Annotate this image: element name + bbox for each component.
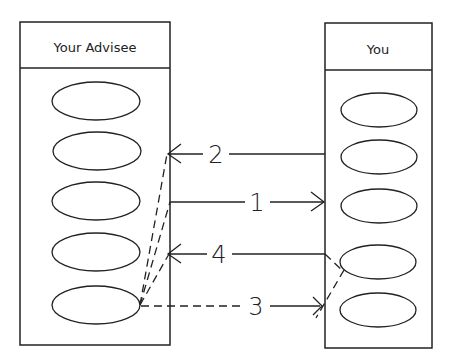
arrow-3: 3 xyxy=(141,293,322,321)
arrow-4-label: 4 xyxy=(211,241,226,269)
arrow-1-label: 1 xyxy=(249,189,264,217)
right-ellipse-2 xyxy=(341,140,417,174)
arrow-2-label: 2 xyxy=(208,141,223,169)
right-ellipse-4 xyxy=(340,245,416,279)
left-column-title: Your Advisee xyxy=(53,40,137,55)
arrow-2: 2 xyxy=(168,141,325,169)
left-ellipse-5 xyxy=(52,286,140,324)
right-ellipse-3 xyxy=(341,189,417,223)
right-column: You xyxy=(325,23,432,348)
left-column-box xyxy=(20,22,170,345)
left-ellipse-2 xyxy=(53,132,141,170)
left-ellipse-4 xyxy=(52,233,140,271)
right-column-box xyxy=(325,23,432,348)
right-column-title: You xyxy=(366,42,389,57)
left-column: Your Advisee xyxy=(20,22,170,345)
right-ellipse-5 xyxy=(340,293,416,327)
right-ellipse-1 xyxy=(341,93,417,127)
left-ellipse-3 xyxy=(52,182,140,220)
arrow-3-label: 3 xyxy=(248,293,263,321)
left-ellipse-1 xyxy=(52,82,140,120)
arrow-1: 1 xyxy=(170,189,324,217)
arrow-4: 4 xyxy=(168,241,325,269)
advisee-diagram: Your Advisee You 2 1 4 xyxy=(0,0,451,361)
left-dashed-connectors xyxy=(140,154,170,305)
